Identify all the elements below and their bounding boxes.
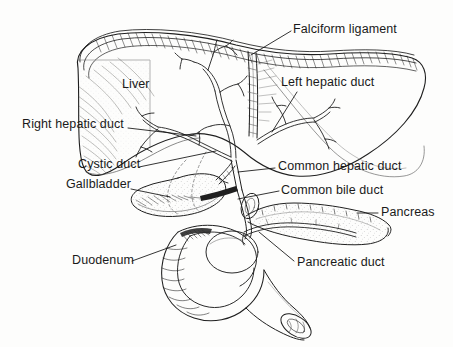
biliary-tree xyxy=(136,40,340,161)
label-right-hepatic-duct: Right hepatic duct xyxy=(22,118,124,131)
label-liver: Liver xyxy=(122,78,150,91)
leader-duodenum xyxy=(132,245,176,261)
falciform-ligament-structure xyxy=(248,52,277,138)
leader-cystic-duct xyxy=(139,151,216,167)
left-hepatic-duct xyxy=(257,97,340,149)
duodenum-structure xyxy=(162,225,316,343)
label-cystic-duct: Cystic duct xyxy=(78,158,140,171)
label-gallbladder: Gallbladder xyxy=(66,178,131,191)
label-pancreas: Pancreas xyxy=(381,206,435,219)
label-common-bile-duct: Common bile duct xyxy=(281,184,383,197)
leader-common-hepatic-duct xyxy=(238,168,275,172)
liver-structure xyxy=(77,29,425,178)
label-common-hepatic-duct: Common hepatic duct xyxy=(278,160,402,173)
label-pancreatic-duct: Pancreatic duct xyxy=(297,256,385,269)
gallbladder-structure xyxy=(128,152,238,220)
anatomy-diagram: Falciform ligament Liver Left hepatic du… xyxy=(0,0,453,347)
label-duodenum: Duodenum xyxy=(72,254,134,267)
pancreas-structure xyxy=(240,198,398,250)
diagram-artwork xyxy=(0,0,453,347)
leader-common-bile-duct xyxy=(238,191,279,199)
label-left-hepatic-duct: Left hepatic duct xyxy=(281,76,374,89)
common-hepatic-duct xyxy=(231,160,242,190)
label-falciform-ligament: Falciform ligament xyxy=(293,23,397,36)
